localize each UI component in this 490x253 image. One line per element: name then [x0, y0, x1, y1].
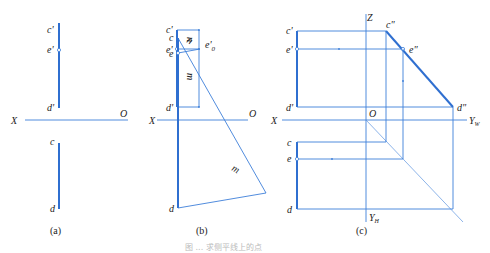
projection-diagram: c' e' d' X O c d (a) n m c' e' d' X O c …: [0, 0, 490, 253]
label-d-prime: d': [47, 102, 55, 113]
point-e: [295, 157, 298, 160]
arrow-tick-e-prime: [338, 48, 340, 50]
arrow-tick-e-dprime: [402, 80, 404, 82]
45-degree-line: [366, 120, 463, 222]
label-e: e: [287, 153, 292, 164]
label-e0-prime-sub: 0: [212, 45, 216, 53]
side-projection-line-cd: [386, 31, 453, 107]
label-origin: O: [120, 108, 127, 119]
label-d: d: [169, 203, 175, 214]
label-d-dprime: d": [457, 102, 467, 113]
label-d: d: [287, 204, 293, 215]
panel-b: n m c' e' d' X O c e d n m e'0 (b): [148, 24, 266, 237]
label-d-prime: d': [286, 102, 294, 113]
point-e-prime: [295, 47, 298, 50]
label-d-prime: d': [166, 102, 174, 113]
label-e-prime: e': [286, 44, 293, 55]
label-c: c: [287, 137, 292, 148]
panel-a: c' e' d' X O c d (a): [10, 23, 128, 237]
caption-a: (a): [50, 225, 61, 237]
construction-line: [178, 193, 266, 208]
label-d: d: [50, 203, 56, 214]
label-c-prime: c': [286, 25, 293, 36]
label-x-axis: X: [148, 115, 156, 126]
caption-c: (c): [356, 225, 367, 237]
label-m-upper: m: [185, 73, 196, 80]
label-c: c: [169, 32, 174, 43]
label-origin: O: [369, 108, 376, 119]
label-c-prime: c': [47, 24, 54, 35]
label-z-axis: Z: [367, 12, 373, 23]
caption-b: (b): [196, 225, 208, 237]
label-e-dprime: e": [409, 44, 418, 55]
label-yw-axis: YW: [469, 115, 481, 127]
label-yh-axis: YH: [369, 212, 380, 224]
parallel-line-e: [178, 49, 200, 53]
label-x-axis: X: [270, 115, 278, 126]
point-e-prime: [57, 48, 60, 51]
dim-tick-bottom: [198, 106, 200, 108]
label-yh-sub: H: [374, 218, 380, 224]
label-e: e: [169, 48, 174, 59]
label-x-axis: X: [10, 115, 18, 126]
label-e-prime: e': [47, 44, 54, 55]
arrow-tick-e: [331, 158, 333, 160]
label-origin: O: [249, 108, 256, 119]
dim-tick-top: [198, 29, 200, 31]
label-e0-prime: e'0: [205, 39, 216, 53]
point-e: [176, 51, 179, 54]
label-c: c: [50, 136, 55, 147]
label-c-dprime: c": [386, 19, 395, 30]
label-m-lower: m: [230, 162, 242, 175]
figure-caption: 图 ... 求侧平线上的点: [185, 242, 262, 252]
panel-c: c' e' d' c" e" d" c e d Z X O YW YH (c): [270, 12, 481, 237]
label-yw-sub: W: [475, 121, 481, 127]
